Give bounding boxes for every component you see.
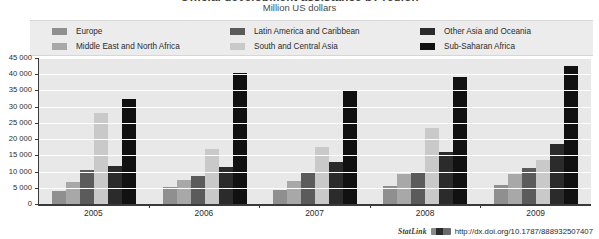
group-separator-4 — [480, 204, 481, 208]
statlink[interactable]: StatLink http://dx.doi.org/10.1787/88893… — [398, 227, 593, 236]
bar-group-2009 — [481, 58, 591, 204]
gridline-10000 — [39, 172, 591, 173]
legend-item-sub-saharan-africa[interactable]: Sub-Saharan Africa — [420, 39, 531, 53]
bar-2009-south-and-central-asia[interactable] — [536, 160, 550, 204]
bars-2009 — [481, 58, 591, 204]
y-tick-label-0: 0 — [28, 200, 32, 208]
legend-item-latin-america-and-caribbean[interactable]: Latin America and Caribbean — [230, 24, 360, 38]
bars-2008 — [370, 58, 480, 204]
y-tick-label-45000: 45 000 — [9, 54, 32, 62]
gridline-35000 — [39, 90, 591, 91]
legend-label-south-and-central-asia: South and Central Asia — [254, 42, 338, 51]
y-tick-label-25000: 25 000 — [9, 119, 32, 127]
legend-swatch-middle-east-and-north-africa — [52, 43, 67, 50]
legend-column-1: Latin America and CaribbeanSouth and Cen… — [230, 24, 360, 54]
plot-wrapper: 45 00040 00035 00030 00025 00020 00015 0… — [0, 58, 599, 210]
legend-item-other-asia-and-oceania[interactable]: Other Asia and Oceania — [420, 24, 531, 38]
bar-2007-europe[interactable] — [273, 190, 287, 204]
bar-2005-middle-east-and-north-africa[interactable] — [66, 182, 80, 204]
bar-2005-south-and-central-asia[interactable] — [94, 113, 108, 204]
legend-label-other-asia-and-oceania: Other Asia and Oceania — [444, 27, 531, 36]
gridline-25000 — [39, 123, 591, 124]
chart-figure: Official development assistance by regio… — [0, 0, 599, 239]
x-axis-label-2005: 2005 — [38, 208, 149, 218]
bar-2009-sub-saharan-africa[interactable] — [564, 66, 578, 204]
x-axis-label-2008: 2008 — [370, 208, 481, 218]
x-axis-label-2006: 2006 — [149, 208, 260, 218]
bar-2008-europe[interactable] — [383, 186, 397, 204]
group-separator-1 — [149, 204, 150, 208]
plot-area — [38, 58, 591, 204]
y-tick-label-20000: 20 000 — [9, 135, 32, 143]
statlink-icon — [431, 228, 451, 235]
bar-group-2008 — [370, 58, 480, 204]
x-axis-label-2007: 2007 — [259, 208, 370, 218]
y-tickmark-25000 — [35, 123, 39, 124]
chart-subtitle: Million US dollars — [0, 2, 599, 13]
y-tickmark-35000 — [35, 90, 39, 91]
y-tickmark-10000 — [35, 172, 39, 173]
y-tickmark-20000 — [35, 139, 39, 140]
y-tickmark-30000 — [35, 107, 39, 108]
x-axis-line — [38, 204, 591, 206]
bar-group-2005 — [39, 58, 149, 204]
y-tickmark-5000 — [35, 188, 39, 189]
bar-2005-europe[interactable] — [52, 191, 66, 204]
y-tick-label-30000: 30 000 — [9, 103, 32, 111]
bar-group-2007 — [260, 58, 370, 204]
bar-2006-middle-east-and-north-africa[interactable] — [177, 180, 191, 204]
y-tick-label-40000: 40 000 — [9, 70, 32, 78]
bar-2007-middle-east-and-north-africa[interactable] — [287, 181, 301, 204]
legend-column-0: EuropeMiddle East and North Africa — [52, 24, 180, 54]
x-axis-labels: 20052006200720082009 — [38, 208, 591, 218]
chart-title: Official development assistance by regio… — [0, 0, 599, 1]
x-axis-label-2009: 2009 — [480, 208, 591, 218]
y-tick-label-10000: 10 000 — [9, 168, 32, 176]
legend-item-south-and-central-asia[interactable]: South and Central Asia — [230, 39, 360, 53]
y-tickmark-40000 — [35, 74, 39, 75]
gridline-30000 — [39, 107, 591, 108]
bar-2008-other-asia-and-oceania[interactable] — [439, 152, 453, 204]
y-tickmark-45000 — [35, 58, 39, 59]
y-tickmark-15000 — [35, 155, 39, 156]
y-axis: 45 00040 00035 00030 00025 00020 00015 0… — [0, 58, 36, 204]
legend-label-latin-america-and-caribbean: Latin America and Caribbean — [254, 27, 360, 36]
bar-groups — [39, 58, 591, 204]
legend-swatch-sub-saharan-africa — [420, 43, 435, 50]
bar-2006-other-asia-and-oceania[interactable] — [219, 167, 233, 204]
chart-legend: EuropeMiddle East and North AfricaLatin … — [30, 20, 593, 56]
legend-item-middle-east-and-north-africa[interactable]: Middle East and North Africa — [52, 39, 180, 53]
statlink-label: StatLink — [398, 227, 427, 236]
bar-group-2006 — [149, 58, 259, 204]
gridline-45000 — [39, 58, 591, 59]
bar-2009-other-asia-and-oceania[interactable] — [550, 144, 564, 204]
legend-swatch-other-asia-and-oceania — [420, 28, 435, 35]
legend-swatch-latin-america-and-caribbean — [230, 28, 245, 35]
bars-2006 — [149, 58, 259, 204]
group-separator-3 — [370, 204, 371, 208]
legend-swatch-europe — [52, 28, 67, 35]
bar-2009-middle-east-and-north-africa[interactable] — [508, 174, 522, 204]
legend-item-europe[interactable]: Europe — [52, 24, 180, 38]
bar-2008-sub-saharan-africa[interactable] — [453, 77, 467, 205]
legend-column-2: Other Asia and OceaniaSub-Saharan Africa — [420, 24, 531, 54]
y-tick-label-35000: 35 000 — [9, 86, 32, 94]
bar-2007-other-asia-and-oceania[interactable] — [329, 162, 343, 205]
bars-2005 — [39, 58, 149, 204]
group-separator-2 — [259, 204, 260, 208]
gridline-15000 — [39, 155, 591, 156]
legend-label-sub-saharan-africa: Sub-Saharan Africa — [444, 42, 515, 51]
legend-swatch-south-and-central-asia — [230, 43, 245, 50]
bars-2007 — [260, 58, 370, 204]
bar-2008-middle-east-and-north-africa[interactable] — [397, 174, 411, 204]
gridline-5000 — [39, 188, 591, 189]
bar-2009-latin-america-and-caribbean[interactable] — [522, 168, 536, 204]
y-tick-label-5000: 5 000 — [13, 184, 32, 192]
statlink-url[interactable]: http://dx.doi.org/10.1787/888932507407 — [455, 227, 593, 236]
bar-2006-europe[interactable] — [163, 187, 177, 204]
gridline-20000 — [39, 139, 591, 140]
gridline-40000 — [39, 74, 591, 75]
bar-2006-latin-america-and-caribbean[interactable] — [191, 176, 205, 204]
y-tick-label-15000: 15 000 — [9, 151, 32, 159]
bar-2006-south-and-central-asia[interactable] — [205, 149, 219, 204]
